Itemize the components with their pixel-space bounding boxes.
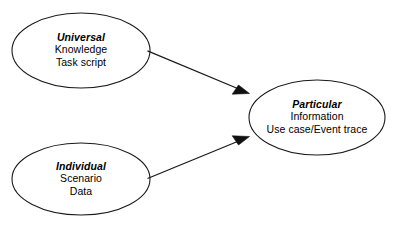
- node-ellipse-individual[interactable]: [12, 143, 150, 215]
- edge-individual-to-particular[interactable]: [148, 136, 250, 179]
- diagram-svg: [0, 0, 396, 226]
- arrowhead-individual: [232, 136, 249, 145]
- diagram-canvas: Universal Knowledge Task script Individu…: [0, 0, 396, 226]
- arrowhead-universal: [232, 85, 249, 94]
- node-ellipse-particular[interactable]: [249, 80, 385, 155]
- edge-universal-to-particular[interactable]: [148, 51, 250, 94]
- edge-line-universal: [148, 51, 241, 90]
- edge-line-individual: [148, 141, 241, 179]
- node-ellipse-universal[interactable]: [12, 13, 150, 88]
